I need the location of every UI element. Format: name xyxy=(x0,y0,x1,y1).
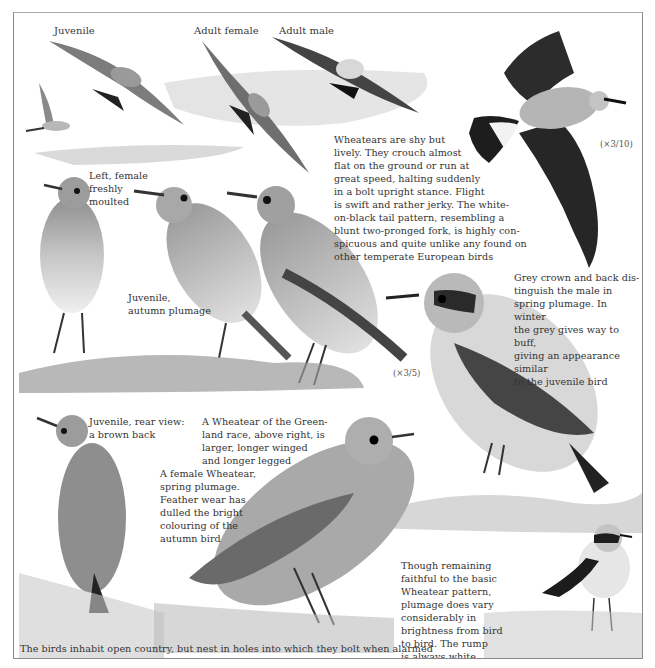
ground-tufts-mid xyxy=(19,355,364,393)
juvenile-flight-illustration xyxy=(49,41,184,125)
label-juvenile: Juvenile xyxy=(54,25,95,37)
caption-habitat: The birds inhabit open country, but nest… xyxy=(20,642,433,655)
caption-male-spring: Grey crown and back dis- tinguish the ma… xyxy=(514,271,642,388)
caption-female-moulted: Left, female freshly moulted xyxy=(89,169,148,208)
plate-frame: Juvenile Adult female Adult male (×3/10)… xyxy=(13,12,643,659)
juvenile-flight-small-illustration xyxy=(26,83,70,131)
caption-juvenile-rear: Juvenile, rear view: a brown back xyxy=(89,415,184,441)
caption-greenland-race: A Wheatear of the Green- land race, abov… xyxy=(202,415,328,467)
scale-flight: (×3/10) xyxy=(600,139,633,149)
juvenile-rear-illustration xyxy=(19,415,164,658)
caption-juvenile-autumn: Juvenile, autumn plumage xyxy=(128,291,211,317)
label-adult-female: Adult female xyxy=(194,25,259,37)
label-adult-male: Adult male xyxy=(279,25,334,37)
male-small-illustration xyxy=(484,524,642,658)
caption-female-spring: A female Wheatear, spring plumage. Feath… xyxy=(160,467,256,545)
scale-perched: (×3/5) xyxy=(393,368,420,378)
caption-behaviour: Wheatears are shy but lively. They crouc… xyxy=(334,133,527,263)
